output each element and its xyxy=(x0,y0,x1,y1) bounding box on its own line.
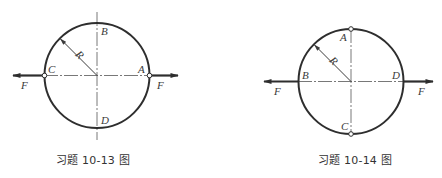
figure-caption-10-13: 习题 10-13 图 xyxy=(56,151,130,167)
force-label-right: F xyxy=(156,79,164,91)
figure-10-13: B D C A R F F xyxy=(13,12,178,140)
radius-label: R xyxy=(327,53,341,67)
point-label-bottom: D xyxy=(100,114,109,126)
force-label-left: F xyxy=(273,85,281,97)
radius-label: R xyxy=(73,47,87,61)
hinge-c-icon xyxy=(42,73,47,78)
point-label-bottom: C xyxy=(341,120,349,132)
point-label-right: A xyxy=(137,63,145,75)
point-label-top: B xyxy=(101,25,108,37)
figure-10-14: A C B D R F F xyxy=(264,27,433,137)
hinge-c-icon xyxy=(349,132,354,137)
point-label-left: C xyxy=(48,63,56,75)
force-label-right: F xyxy=(417,85,425,97)
point-label-top: A xyxy=(339,31,347,43)
force-label-left: F xyxy=(20,79,28,91)
point-label-left: B xyxy=(302,69,309,81)
point-label-right: D xyxy=(391,69,400,81)
figure-caption-10-14: 习题 10-14 图 xyxy=(318,151,392,167)
hinge-a-icon xyxy=(147,73,152,78)
hinge-a-icon xyxy=(349,27,354,32)
